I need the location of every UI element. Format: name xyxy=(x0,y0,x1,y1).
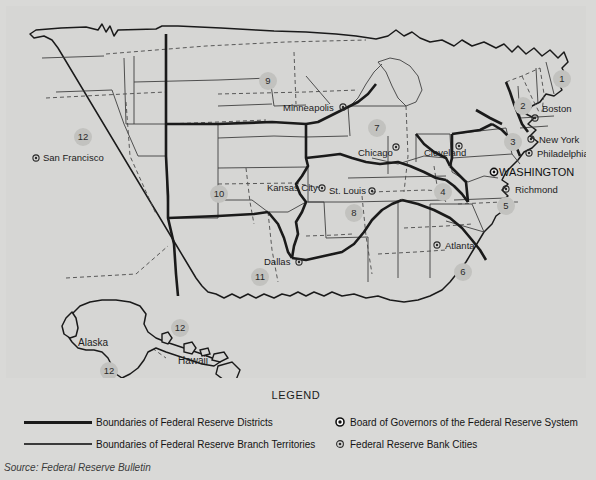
district-badge[interactable]: 11 xyxy=(251,268,269,286)
district-badge-number: 5 xyxy=(503,200,508,211)
bank-city-label: New York xyxy=(539,134,579,145)
district-badge-number: 12 xyxy=(175,322,186,333)
district-badge-number: 12 xyxy=(78,131,89,142)
source-caption: Source: Federal Reserve Bulletin xyxy=(4,462,151,473)
district-badge-number: 6 xyxy=(460,266,465,277)
board-of-governors-swatch xyxy=(330,416,350,428)
district-badge[interactable]: 9 xyxy=(259,72,277,90)
geographic-label: Hawaii xyxy=(178,355,208,366)
bank-city[interactable]: Kansas City xyxy=(267,182,325,193)
bank-city-label: Richmond xyxy=(515,184,558,195)
district-badge[interactable]: 7 xyxy=(368,119,386,137)
geographic-label: Alaska xyxy=(78,337,108,348)
district-badge-number: 7 xyxy=(374,122,379,133)
bank-city-label: San Francisco xyxy=(43,152,104,163)
legend-row-board-of-governors: Board of Governors of the Federal Reserv… xyxy=(296,411,586,433)
legend-row-branch-boundaries: Boundaries of Federal Reserve Branch Ter… xyxy=(6,433,296,455)
legend-label-branch-boundaries: Boundaries of Federal Reserve Branch Ter… xyxy=(96,439,315,450)
district-badge[interactable]: 12 xyxy=(171,319,189,337)
district-badge[interactable]: 2 xyxy=(514,97,532,115)
district-badge[interactable]: 10 xyxy=(210,185,228,203)
district-badge[interactable]: 6 xyxy=(454,263,472,281)
bank-city-marker-dot xyxy=(395,146,397,148)
branch-boundary-swatch xyxy=(24,443,96,444)
bank-city-swatch xyxy=(330,438,350,450)
bank-city-label: Dallas xyxy=(264,256,291,267)
board-of-governors-washington-group: WASHINGTON xyxy=(490,166,574,178)
legend-label-district-boundaries: Boundaries of Federal Reserve Districts xyxy=(96,417,273,428)
legend-label-board-of-governors: Board of Governors of the Federal Reserv… xyxy=(350,417,578,428)
district-badge[interactable]: 12 xyxy=(74,128,92,146)
bank-city-marker-dot xyxy=(298,261,300,263)
bank-city-label: Minneapolis xyxy=(283,102,334,113)
legend: LEGEND Boundaries of Federal Reserve Dis… xyxy=(6,382,586,460)
district-badge-number: 10 xyxy=(214,188,225,199)
district-badge[interactable]: 1 xyxy=(553,70,571,88)
bank-city-marker-icon xyxy=(334,438,346,450)
bank-city[interactable]: Boston xyxy=(532,103,572,121)
district-boundary-swatch xyxy=(24,421,96,424)
federal-reserve-districts-map-page: 1234567891011121212 BostonNew YorkPhilad… xyxy=(0,0,596,480)
bank-city-label: Philadelphia xyxy=(537,148,586,159)
bank-city-label: Atlanta xyxy=(445,240,475,251)
bank-city-marker-dot xyxy=(321,187,323,189)
district-badge[interactable]: 8 xyxy=(345,204,363,222)
district-badge-number: 3 xyxy=(510,136,515,147)
district-badge[interactable]: 4 xyxy=(434,183,452,201)
us-map-svg: 1234567891011121212 BostonNew YorkPhilad… xyxy=(6,6,586,378)
thin-line-icon xyxy=(24,443,92,444)
district-badge[interactable]: 5 xyxy=(497,197,515,215)
bank-city-marker-dot xyxy=(528,152,530,154)
legend-column-markers: Board of Governors of the Federal Reserv… xyxy=(296,411,586,455)
bank-city[interactable]: Philadelphia xyxy=(526,148,586,159)
hawaii-island-hawaii xyxy=(216,362,240,378)
legend-row-district-boundaries: Boundaries of Federal Reserve Districts xyxy=(6,411,296,433)
legend-row-bank-cities: Federal Reserve Bank Cities xyxy=(296,433,586,455)
bank-city-marker-dot xyxy=(35,157,37,159)
bank-city-marker-dot xyxy=(530,138,532,140)
bank-city-label: Boston xyxy=(542,103,572,114)
hawaii-island-kauai xyxy=(162,332,172,344)
district-badge-number: 11 xyxy=(255,271,265,282)
legend-label-bank-cities: Federal Reserve Bank Cities xyxy=(350,439,477,450)
board-of-governors-marker-dot xyxy=(493,171,496,174)
thick-line-icon xyxy=(24,421,92,424)
map-canvas: 1234567891011121212 BostonNew YorkPhilad… xyxy=(6,6,586,378)
legend-column-lines: Boundaries of Federal Reserve Districts … xyxy=(6,411,296,455)
map-frame: 1234567891011121212 BostonNew YorkPhilad… xyxy=(0,0,596,480)
hawaii-island-maui xyxy=(212,352,228,362)
washington-label: WASHINGTON xyxy=(499,166,574,178)
district-badge-number: 9 xyxy=(265,75,270,86)
bank-city-marker-dot xyxy=(436,244,438,246)
district-badge-number: 1 xyxy=(559,73,564,84)
branch-line-sw xyxy=(66,246,168,278)
bank-city-marker-dot xyxy=(505,188,507,190)
bank-city-label: Cleveland xyxy=(424,147,466,158)
legend-title: LEGEND xyxy=(6,382,586,401)
bank-city-marker-dot xyxy=(371,190,373,192)
district-badge[interactable]: 3 xyxy=(504,133,522,151)
bank-city-marker-dot xyxy=(342,106,344,108)
bank-city[interactable]: Richmond xyxy=(503,184,558,195)
district-badge-number: 4 xyxy=(440,186,445,197)
bank-city-label: Kansas City xyxy=(267,182,318,193)
bank-city-label: Chicago xyxy=(358,147,393,158)
bank-city[interactable]: San Francisco xyxy=(33,152,104,163)
bank-city-marker-dot xyxy=(534,117,536,119)
district-badge-number: 8 xyxy=(351,207,356,218)
board-of-governors-marker-icon xyxy=(334,416,346,428)
district-badge-number: 12 xyxy=(104,365,115,376)
district-badge-number: 2 xyxy=(520,100,525,111)
bank-city-label: St. Louis xyxy=(329,185,366,196)
legend-columns: Boundaries of Federal Reserve Districts … xyxy=(6,411,586,455)
